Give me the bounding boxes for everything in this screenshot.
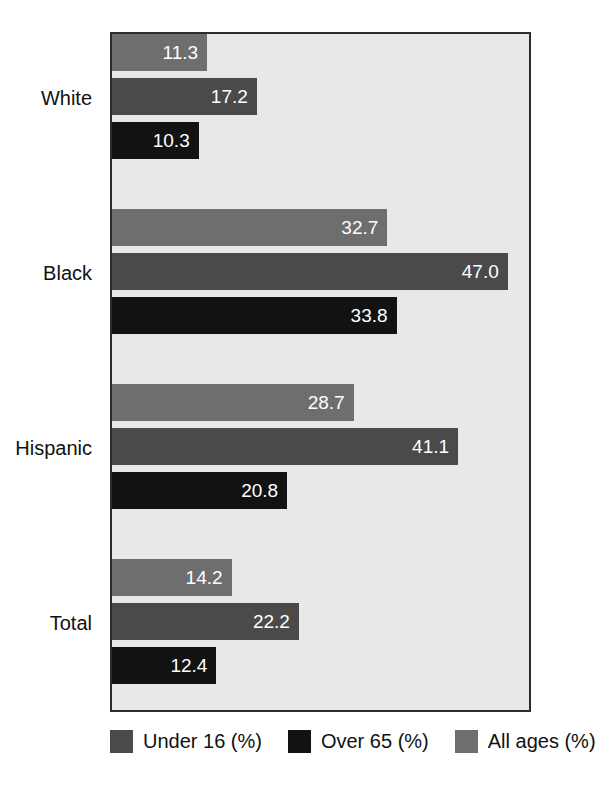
bar-value-label: 20.8 [241, 481, 278, 500]
legend-label: Over 65 (%) [321, 731, 429, 751]
bar-value-label: 22.2 [253, 612, 290, 631]
bar-hispanic-over-65: 20.8 [112, 472, 287, 509]
category-label-black: Black [43, 263, 92, 283]
bar-value-label: 17.2 [211, 87, 248, 106]
category-label-total: Total [50, 613, 92, 633]
bar-value-label: 33.8 [351, 306, 388, 325]
bar-value-label: 28.7 [308, 393, 345, 412]
bar-row: 10.3 [112, 122, 529, 159]
legend-swatch-icon [455, 730, 478, 753]
bar-white-under-16: 17.2 [112, 78, 257, 115]
bar-group-hispanic: 28.7 41.1 20.8 [112, 384, 529, 516]
bar-total-under-16: 22.2 [112, 603, 299, 640]
bar-row: 32.7 [112, 209, 529, 246]
bar-row: 47.0 [112, 253, 529, 290]
bar-black-under-16: 47.0 [112, 253, 508, 290]
bar-group-black: 32.7 47.0 33.8 [112, 209, 529, 341]
bar-row: 28.7 [112, 384, 529, 421]
bar-black-all-ages: 32.7 [112, 209, 387, 246]
category-label-hispanic: Hispanic [15, 438, 92, 458]
bar-group-total: 14.2 22.2 12.4 [112, 559, 529, 691]
legend-label: All ages (%) [488, 731, 596, 751]
bar-row: 20.8 [112, 472, 529, 509]
bar-groups: 11.3 17.2 10.3 32.7 [112, 34, 529, 710]
bar-row: 11.3 [112, 34, 529, 71]
legend-item-over-65[interactable]: Over 65 (%) [288, 730, 429, 753]
chart-legend: Under 16 (%) Over 65 (%) All ages (%) [110, 724, 580, 758]
bar-value-label: 14.2 [186, 568, 223, 587]
bar-row: 12.4 [112, 647, 529, 684]
legend-item-under-16[interactable]: Under 16 (%) [110, 730, 262, 753]
bar-black-over-65: 33.8 [112, 297, 397, 334]
bar-row: 33.8 [112, 297, 529, 334]
bar-value-label: 11.3 [163, 43, 199, 62]
bar-row: 14.2 [112, 559, 529, 596]
category-axis: White Black Hispanic Total [0, 32, 100, 712]
bar-group-white: 11.3 17.2 10.3 [112, 34, 529, 166]
legend-label: Under 16 (%) [143, 731, 262, 751]
bar-value-label: 41.1 [412, 437, 449, 456]
bar-total-all-ages: 14.2 [112, 559, 232, 596]
bar-total-over-65: 12.4 [112, 647, 216, 684]
legend-item-all-ages[interactable]: All ages (%) [455, 730, 596, 753]
bar-value-label: 12.4 [170, 656, 207, 675]
bar-white-over-65: 10.3 [112, 122, 199, 159]
bar-value-label: 47.0 [462, 262, 499, 281]
bar-value-label: 32.7 [341, 218, 378, 237]
category-label-white: White [41, 88, 92, 108]
bar-hispanic-under-16: 41.1 [112, 428, 458, 465]
legend-swatch-icon [288, 730, 311, 753]
bar-row: 41.1 [112, 428, 529, 465]
bar-hispanic-all-ages: 28.7 [112, 384, 354, 421]
bar-row: 22.2 [112, 603, 529, 640]
bar-white-all-ages: 11.3 [112, 34, 207, 71]
legend-swatch-icon [110, 730, 133, 753]
bar-value-label: 10.3 [153, 131, 190, 150]
bar-row: 17.2 [112, 78, 529, 115]
